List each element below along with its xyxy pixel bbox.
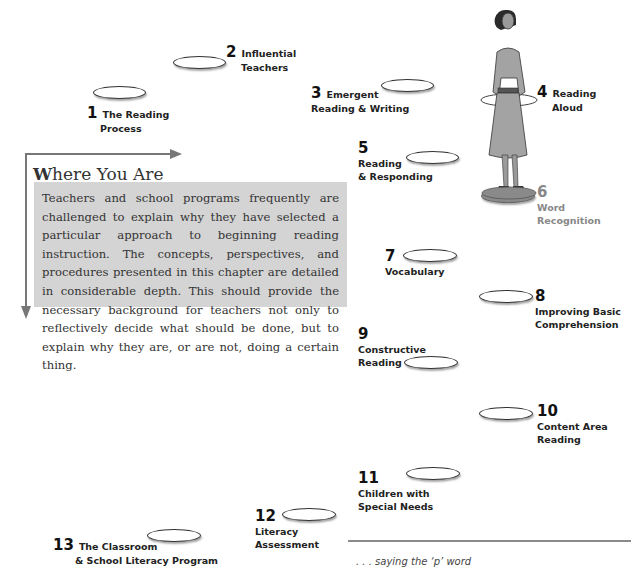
- chapter-number: 12: [255, 507, 319, 525]
- chapter-title-line2: Comprehension: [535, 318, 621, 331]
- chapter-1[interactable]: 1The Reading Process: [87, 104, 169, 135]
- arrow-horizontal: [25, 153, 173, 155]
- chapter-number: 4: [537, 83, 547, 101]
- chapter-title-line2: & School Literacy Program: [75, 554, 218, 567]
- footer-divider: [348, 540, 631, 542]
- where-you-are-text: Teachers and school programs frequently …: [34, 182, 347, 307]
- footer-caption: . . . saying the ‘p’ word: [356, 556, 471, 567]
- chapter-number: 10: [537, 402, 608, 420]
- chapter-number: 9: [358, 325, 426, 343]
- chapter-13[interactable]: 13The Classroom & School Literacy Progra…: [53, 536, 218, 567]
- stepping-stone-10: [479, 407, 533, 420]
- stepping-stone-2: [173, 56, 226, 69]
- chapter-8[interactable]: 8 Improving Basic Comprehension: [535, 287, 621, 331]
- chapter-number: 13: [53, 536, 74, 554]
- stepping-stone-8: [479, 290, 533, 303]
- chapter-4[interactable]: 4Reading Aloud: [537, 83, 596, 114]
- chapter-title-line2: Recognition: [537, 214, 601, 227]
- heading-initial: W: [33, 164, 52, 184]
- chapter-7[interactable]: 7 Vocabulary: [385, 247, 445, 278]
- chapter-title-line2: Reading: [358, 356, 426, 369]
- chapter-2[interactable]: 2Influential Teachers: [226, 43, 296, 74]
- chapter-6-current[interactable]: 6 Word Recognition: [537, 183, 601, 227]
- stepping-stone-1: [93, 86, 146, 99]
- chapter-title: Word: [537, 201, 601, 214]
- chapter-title: Influential: [241, 47, 296, 60]
- chapter-title: The Reading: [102, 108, 169, 121]
- chapter-title-line2: Special Needs: [358, 500, 433, 513]
- chapter-3[interactable]: 3Emergent Reading & Writing: [311, 84, 409, 115]
- teacher-illustration-icon: [475, 0, 545, 205]
- chapter-12[interactable]: 12 Literacy Assessment: [255, 507, 319, 551]
- arrow-vertical: [25, 153, 27, 313]
- chapter-title: Improving Basic: [535, 305, 621, 318]
- chapter-number: 11: [358, 469, 433, 487]
- chapter-number: 7: [385, 247, 445, 265]
- chapter-number: 8: [535, 287, 621, 305]
- chapter-title: Literacy: [255, 525, 319, 538]
- chapter-number: 3: [311, 84, 321, 102]
- chapter-number: 2: [226, 43, 236, 61]
- chapter-title: Emergent: [326, 88, 378, 101]
- chapter-title-line2: Teachers: [241, 61, 296, 74]
- chapter-title-line2: Process: [100, 122, 169, 135]
- chapter-title-line2: & Responding: [358, 170, 433, 183]
- chapter-title-line2: Aloud: [552, 101, 596, 114]
- chapter-title: The Classroom: [79, 540, 158, 553]
- chapter-5[interactable]: 5 Reading & Responding: [358, 139, 433, 183]
- chapter-title: Constructive: [358, 343, 426, 356]
- chapter-title: Content Area: [537, 420, 608, 433]
- chapter-title: Children with: [358, 487, 433, 500]
- chapter-9[interactable]: 9 Constructive Reading: [358, 325, 426, 369]
- chapter-title-line2: Reading & Writing: [311, 102, 409, 115]
- chapter-title: Reading: [552, 87, 596, 100]
- arrow-right-icon: [170, 149, 182, 159]
- chapter-10[interactable]: 10 Content Area Reading: [537, 402, 608, 446]
- chapter-number: 5: [358, 139, 433, 157]
- chapter-number: 1: [87, 104, 97, 122]
- chapter-title: Vocabulary: [385, 265, 445, 278]
- where-you-are-heading: Where You Are: [33, 164, 164, 184]
- heading-rest: here You Are: [52, 164, 163, 184]
- chapter-title-line2: Reading: [537, 433, 608, 446]
- chapter-title-line2: Assessment: [255, 538, 319, 551]
- chapter-11[interactable]: 11 Children with Special Needs: [358, 469, 433, 513]
- chapter-number: 6: [537, 183, 601, 201]
- arrow-down-icon: [21, 306, 31, 319]
- chapter-title: Reading: [358, 157, 433, 170]
